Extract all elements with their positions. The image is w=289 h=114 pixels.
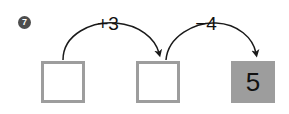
operation-label-1: +3: [84, 13, 132, 35]
answer-box-3: 5: [231, 61, 275, 103]
worksheet-item: 7 +3 −4 5: [0, 0, 289, 114]
answer-box-1[interactable]: [41, 61, 85, 103]
operation-label-2: −4: [182, 13, 230, 35]
answer-box-2[interactable]: [136, 61, 180, 103]
